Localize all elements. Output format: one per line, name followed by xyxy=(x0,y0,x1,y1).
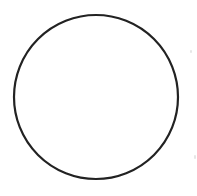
diagram-canvas xyxy=(0,0,197,196)
faint-mark xyxy=(194,155,196,159)
circle-drawing xyxy=(0,0,197,196)
circle-outline xyxy=(14,15,178,179)
faint-mark xyxy=(190,50,192,53)
